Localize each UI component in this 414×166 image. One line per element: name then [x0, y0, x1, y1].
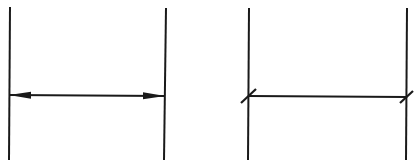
dimension-diagram — [0, 0, 414, 166]
right-extension-line — [164, 8, 166, 160]
dimension-line — [249, 96, 406, 97]
left-extension-line — [248, 8, 249, 160]
left-extension-line — [9, 7, 10, 160]
arrowhead-dimension-panel — [9, 7, 166, 160]
oblique-tick-dimension-panel — [241, 8, 413, 160]
dimension-line-with-arrowheads — [10, 95, 164, 96]
right-extension-line — [406, 8, 407, 160]
